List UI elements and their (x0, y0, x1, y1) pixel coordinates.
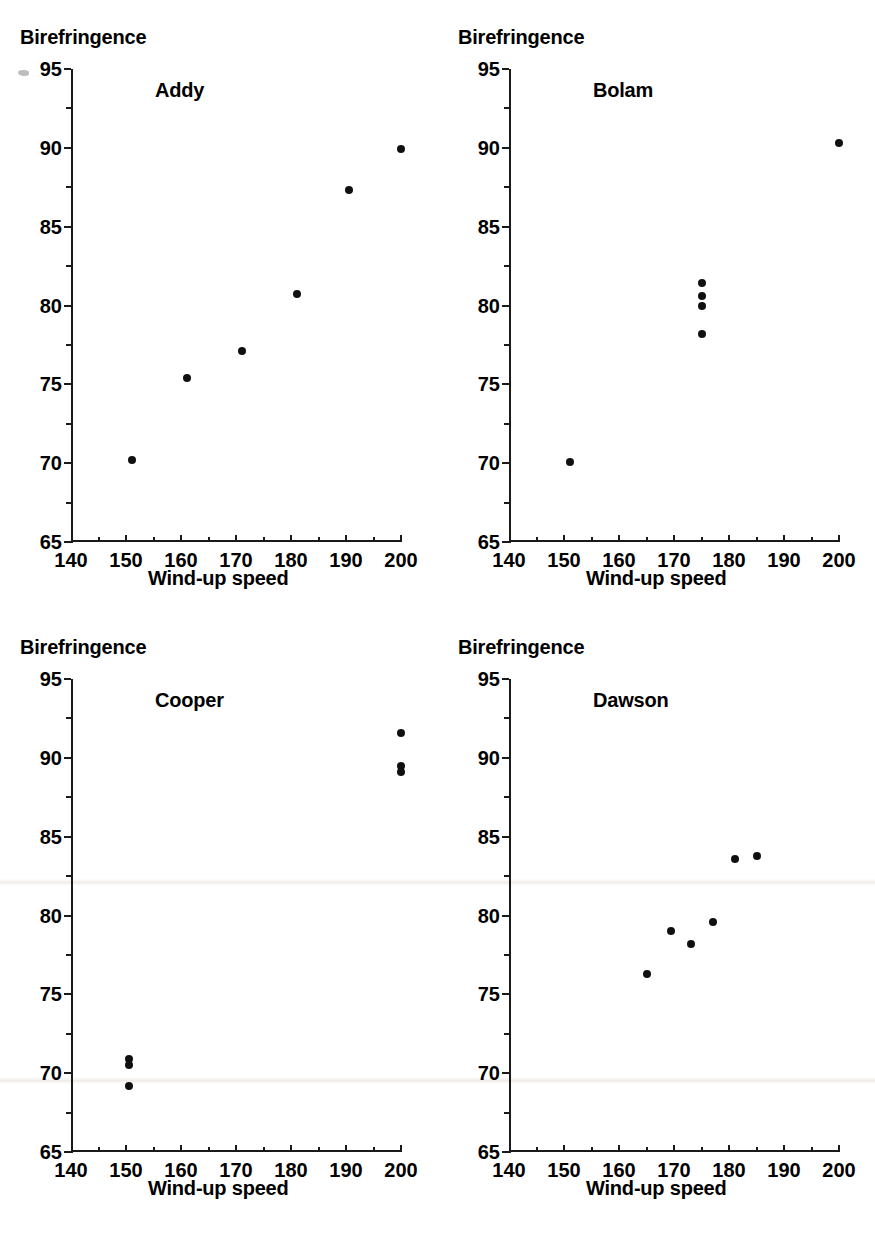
x-tick-label: 150 (109, 550, 142, 570)
y-tick-minor (66, 1112, 71, 1114)
data-point (397, 145, 405, 153)
y-tick-minor (504, 954, 509, 956)
data-point (698, 330, 706, 338)
x-tick-minor (536, 1147, 538, 1152)
y-tick-label: 80 (40, 296, 62, 316)
x-axis-title: Wind-up speed (586, 1177, 727, 1200)
x-tick (673, 1145, 675, 1152)
x-tick-minor (153, 537, 155, 542)
x-tick-label: 150 (109, 1160, 142, 1180)
y-tick-label: 70 (40, 453, 62, 473)
data-point (753, 852, 761, 860)
y-tick (502, 68, 509, 70)
x-tick-label: 200 (822, 1160, 855, 1180)
x-tick (290, 1145, 292, 1152)
y-tick-minor (66, 954, 71, 956)
data-point (125, 1055, 133, 1063)
x-axis-title: Wind-up speed (586, 567, 727, 590)
y-tick-minor (504, 344, 509, 346)
x-tick-minor (153, 1147, 155, 1152)
x-tick (838, 1145, 840, 1152)
y-tick (502, 1072, 509, 1074)
data-point (345, 186, 353, 194)
x-tick-label: 190 (329, 1160, 362, 1180)
y-tick-label: 75 (40, 374, 62, 394)
x-tick-minor (811, 1147, 813, 1152)
y-tick (502, 993, 509, 995)
x-tick-label: 140 (492, 550, 525, 570)
data-point (566, 458, 574, 466)
x-tick-label: 190 (329, 550, 362, 570)
x-tick (728, 1145, 730, 1152)
y-axis-line (71, 679, 73, 1153)
y-tick (64, 226, 71, 228)
data-point (397, 762, 405, 770)
x-tick-minor (208, 1147, 210, 1152)
data-point (125, 1082, 133, 1090)
data-point (698, 302, 706, 310)
data-point (709, 918, 717, 926)
x-tick-label: 200 (384, 550, 417, 570)
x-tick (563, 1145, 565, 1152)
x-tick-label: 190 (767, 550, 800, 570)
x-tick (783, 535, 785, 542)
y-tick (64, 678, 71, 680)
y-tick (502, 147, 509, 149)
y-tick-label: 95 (40, 669, 62, 689)
y-tick-label: 85 (478, 827, 500, 847)
x-tick-minor (591, 1147, 593, 1152)
x-tick (125, 1145, 127, 1152)
y-tick-label: 75 (478, 374, 500, 394)
x-tick-minor (811, 537, 813, 542)
x-tick-minor (591, 537, 593, 542)
y-tick-label: 90 (40, 748, 62, 768)
y-tick-minor (66, 107, 71, 109)
x-tick (180, 535, 182, 542)
y-tick (502, 383, 509, 385)
y-tick-label: 90 (40, 138, 62, 158)
y-tick (502, 462, 509, 464)
y-tick-minor (66, 502, 71, 504)
axes-cooper: 65707580859095140150160170180190200 (71, 679, 401, 1152)
y-tick-label: 75 (478, 984, 500, 1004)
y-tick (502, 226, 509, 228)
x-tick (345, 535, 347, 542)
x-axis-title: Wind-up speed (148, 567, 289, 590)
y-tick-minor (504, 502, 509, 504)
x-tick (400, 1145, 402, 1152)
y-axis-line (509, 679, 511, 1153)
data-point (397, 729, 405, 737)
x-tick (125, 535, 127, 542)
x-tick (290, 535, 292, 542)
x-tick-label: 150 (547, 550, 580, 570)
panel-addy: BirefringenceAddy65707580859095140150160… (0, 6, 437, 616)
x-tick-minor (318, 1147, 320, 1152)
x-tick (235, 1145, 237, 1152)
y-tick (64, 1151, 71, 1153)
x-tick-label: 190 (767, 1160, 800, 1180)
y-axis-title: Birefringence (458, 636, 584, 659)
y-tick (64, 1072, 71, 1074)
panel-dawson: BirefringenceDawson657075808590951401501… (438, 616, 875, 1226)
y-tick-minor (504, 265, 509, 267)
x-tick-minor (536, 537, 538, 542)
x-tick-minor (646, 1147, 648, 1152)
y-tick (64, 147, 71, 149)
y-tick (64, 993, 71, 995)
y-tick-minor (504, 107, 509, 109)
y-tick (64, 383, 71, 385)
x-tick-minor (318, 537, 320, 542)
y-tick-label: 80 (478, 906, 500, 926)
y-tick (502, 305, 509, 307)
y-tick (64, 757, 71, 759)
x-tick-minor (263, 1147, 265, 1152)
data-point (128, 456, 136, 464)
x-axis-title: Wind-up speed (148, 1177, 289, 1200)
x-tick (673, 535, 675, 542)
data-point (667, 927, 675, 935)
y-tick (64, 915, 71, 917)
y-axis-line (71, 69, 73, 543)
x-tick-minor (756, 1147, 758, 1152)
x-tick-label: 140 (492, 1160, 525, 1180)
data-point (731, 855, 739, 863)
